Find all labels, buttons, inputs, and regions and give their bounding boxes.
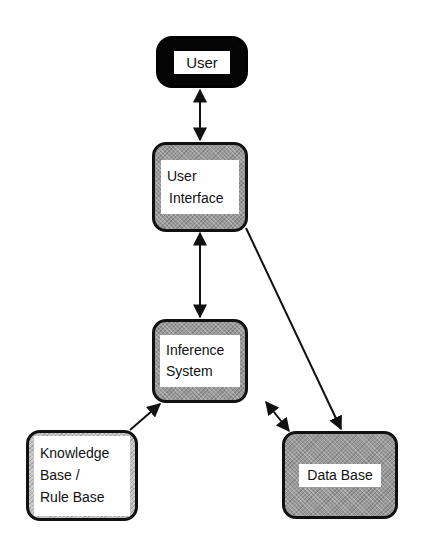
edge-inference-database bbox=[266, 402, 289, 431]
node-user-interface: User Interface bbox=[152, 142, 248, 232]
node-label: User bbox=[174, 51, 230, 74]
node-user: User bbox=[156, 36, 248, 88]
node-label: Knowledge Base / Rule Base bbox=[34, 436, 130, 516]
edge-ui-database bbox=[246, 228, 341, 429]
edge-kb-inference bbox=[130, 404, 160, 430]
node-label: Data Base bbox=[299, 464, 380, 487]
node-inference-system: Inference System bbox=[152, 319, 248, 403]
node-data-base: Data Base bbox=[282, 431, 398, 519]
node-label: User Interface bbox=[161, 160, 239, 214]
node-knowledge-base: Knowledge Base / Rule Base bbox=[26, 430, 138, 521]
node-label: Inference System bbox=[160, 335, 240, 387]
